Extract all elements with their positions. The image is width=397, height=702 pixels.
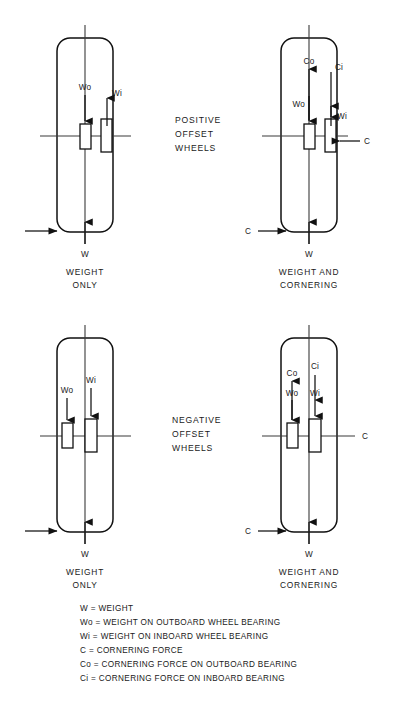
caption-line-1: WEIGHT <box>66 567 104 577</box>
label-w: W <box>305 250 313 259</box>
label-c-axle: C <box>364 137 370 146</box>
outboard-bearing <box>80 124 91 149</box>
center-label-line-1: POSITIVE <box>175 115 221 125</box>
wheel-bearing-load-figure: Wo Wi W WEIGHT ONLY Co Wo Ci Wi <box>0 0 397 702</box>
label-wi: Wi <box>310 389 320 398</box>
center-label-line-3: WHEELS <box>172 443 213 453</box>
center-label-line-1: NEGATIVE <box>172 415 221 425</box>
label-w: W <box>81 550 89 559</box>
outboard-bearing <box>287 423 298 448</box>
label-ci: Ci <box>311 362 319 371</box>
label-c-ground: C <box>245 527 251 536</box>
center-label-line-2: OFFSET <box>175 129 214 139</box>
center-label-line-3: WHEELS <box>175 143 216 153</box>
label-wo: Wo <box>61 386 74 395</box>
label-wi: Wi <box>112 89 122 98</box>
legend-item: W = WEIGHT <box>80 604 133 613</box>
legend: W = WEIGHT Wo = WEIGHT ON OUTBOARD WHEEL… <box>80 604 297 683</box>
label-ci: Ci <box>335 63 343 72</box>
label-wi: Wi <box>337 112 347 121</box>
outboard-bearing <box>62 423 73 448</box>
panel-top-left: Wo Wi W WEIGHT ONLY <box>25 25 131 290</box>
legend-item: C = CORNERING FORCE <box>80 646 183 655</box>
panel-top-right: Co Wo Ci Wi C W C WEIGHT AND CORNERING <box>245 25 370 290</box>
legend-item: Wo = WEIGHT ON OUTBOARD WHEEL BEARING <box>80 618 280 627</box>
inboard-bearing <box>85 419 97 452</box>
caption-line-2: ONLY <box>72 280 97 290</box>
label-wi: Wi <box>86 376 96 385</box>
center-label-positive: POSITIVE OFFSET WHEELS <box>175 115 221 153</box>
label-c-axle: C <box>362 432 368 441</box>
panel-bottom-left: Wo Wi W WEIGHT ONLY <box>25 325 131 590</box>
label-w: W <box>305 550 313 559</box>
label-wo: Wo <box>79 83 92 92</box>
center-label-negative: NEGATIVE OFFSET WHEELS <box>172 415 221 453</box>
label-co: Co <box>287 369 298 378</box>
label-wo: Wo <box>292 100 305 109</box>
caption-line-2: CORNERING <box>280 280 338 290</box>
caption-line-1: WEIGHT <box>66 267 104 277</box>
label-co: Co <box>304 57 315 66</box>
label-wo: Wo <box>286 389 299 398</box>
label-c-ground: C <box>245 227 251 236</box>
legend-item: Wi = WEIGHT ON INBOARD WHEEL BEARING <box>80 632 268 641</box>
label-w: W <box>81 250 89 259</box>
legend-item: Co = CORNERING FORCE ON OUTBOARD BEARING <box>80 660 297 669</box>
caption-line-1: WEIGHT AND <box>279 567 339 577</box>
inboard-bearing <box>309 419 321 452</box>
caption-line-1: WEIGHT AND <box>279 267 339 277</box>
caption-line-2: CORNERING <box>280 580 338 590</box>
legend-item: Ci = CORNERING FORCE ON INBOARD BEARING <box>80 674 285 683</box>
center-label-line-2: OFFSET <box>172 429 211 439</box>
outboard-bearing <box>304 124 315 149</box>
panel-bottom-right: Co Wo Ci Wi C W C WEIGHT AND CORNERING <box>245 325 368 590</box>
caption-line-2: ONLY <box>72 580 97 590</box>
figure-svg: Wo Wi W WEIGHT ONLY Co Wo Ci Wi <box>0 0 397 702</box>
